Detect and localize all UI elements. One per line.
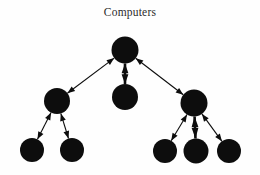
graph-edge [202, 114, 222, 141]
graph-node[interactable] [153, 139, 177, 163]
graph-node[interactable] [112, 84, 138, 110]
graph-edge [122, 64, 129, 85]
graph-node[interactable] [184, 139, 209, 164]
graph-edge [60, 113, 69, 138]
graph-edge [37, 113, 51, 140]
graph-node[interactable] [181, 90, 208, 117]
graph-canvas [0, 0, 260, 175]
graph-node[interactable] [60, 138, 84, 162]
graph-node[interactable] [20, 138, 44, 162]
graph-node[interactable] [112, 37, 139, 64]
graph-node[interactable] [44, 88, 70, 114]
nodes-layer [20, 37, 241, 164]
graph-edge [136, 58, 184, 95]
graph-edge [171, 115, 187, 141]
graph-node[interactable] [217, 139, 241, 163]
graph-edge [67, 58, 114, 93]
figure-container: Computers [0, 0, 260, 175]
graph-edge [192, 116, 199, 138]
